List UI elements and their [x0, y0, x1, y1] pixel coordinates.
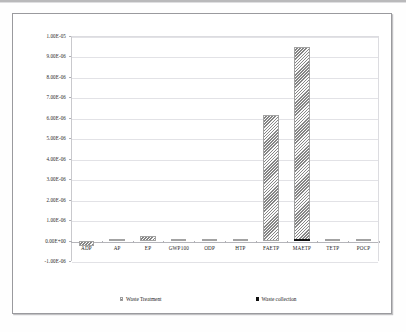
figure-container: 1.00E-059.00E-068.00E-067.00E-066.00E-06…	[12, 13, 392, 314]
legend-swatch-hatched-icon	[120, 297, 123, 300]
bar-group	[317, 36, 348, 261]
bar-group	[163, 36, 194, 261]
y-axis-tick-label: 7.00E-06	[14, 94, 66, 100]
x-axis-tick-label: EP	[133, 245, 164, 251]
bar-group	[287, 36, 318, 261]
y-axis-tick-label: 9.00E-06	[14, 53, 66, 59]
legend-entry[interactable]: Waste Treatment	[120, 296, 161, 302]
page-top-rule-secondary	[0, 2, 406, 3]
y-axis-tick-label: -1.00E-06	[14, 258, 66, 264]
x-axis-tick-label: GWP100	[163, 245, 194, 251]
bar-waste-treatment[interactable]	[263, 115, 278, 241]
x-tick-mark	[163, 241, 164, 243]
x-tick-mark	[71, 241, 72, 243]
x-axis-tick-label: AP	[102, 245, 133, 251]
x-tick-mark	[348, 241, 349, 243]
bar-waste-treatment[interactable]	[325, 239, 340, 241]
x-axis-tick-label: MAETP	[287, 245, 318, 251]
y-axis-tick-label: 8.00E-06	[14, 74, 66, 80]
legend-swatch-black-icon	[256, 297, 259, 300]
gridline	[72, 262, 378, 263]
bar-waste-treatment[interactable]	[356, 239, 371, 241]
y-axis-tick-label: 5.00E-06	[14, 135, 66, 141]
y-axis-tick-label: 3.00E-06	[14, 176, 66, 182]
x-axis-tick-label: HTP	[225, 245, 256, 251]
x-axis-tick-label: ADP	[71, 245, 102, 251]
legend-entry[interactable]: Waste collection	[256, 296, 297, 302]
x-tick-mark	[256, 241, 257, 243]
bar-group	[225, 36, 256, 261]
y-axis-tick-label: 0.00E+00	[14, 238, 66, 244]
bar-waste-treatment[interactable]	[109, 239, 124, 241]
bar-waste-treatment[interactable]	[171, 239, 186, 241]
bar-waste-treatment[interactable]	[233, 239, 248, 241]
chart-legend: Waste TreatmentWaste collection	[71, 296, 379, 310]
x-tick-mark	[379, 241, 380, 243]
y-axis-tick-label: 4.00E-06	[14, 156, 66, 162]
legend-label: Waste collection	[261, 296, 296, 302]
bar-waste-treatment[interactable]	[294, 47, 309, 240]
bar-group	[102, 36, 133, 261]
x-axis-tick-label: TETP	[317, 245, 348, 251]
bar-waste-treatment[interactable]	[140, 236, 155, 241]
bar-waste-collection[interactable]	[294, 239, 309, 241]
y-axis-tick-label: 1.00E-05	[14, 33, 66, 39]
bar-group	[256, 36, 287, 261]
bar-group	[71, 36, 102, 261]
bar-waste-treatment[interactable]	[202, 239, 217, 241]
x-axis-tick-label: POCP	[348, 245, 379, 251]
y-tick-mark	[69, 261, 71, 262]
bar-group	[348, 36, 379, 261]
y-axis-tick-label: 6.00E-06	[14, 115, 66, 121]
legend-label: Waste Treatment	[126, 296, 162, 302]
bar-series-group	[71, 36, 379, 261]
x-tick-mark	[133, 241, 134, 243]
x-axis-tick-label: FAETP	[256, 245, 287, 251]
y-axis-tick-label: 2.00E-06	[14, 197, 66, 203]
chart-page: 1.00E-059.00E-068.00E-067.00E-066.00E-06…	[0, 0, 406, 332]
x-tick-mark	[102, 241, 103, 243]
x-tick-mark	[225, 241, 226, 243]
x-axis-tick-label: ODP	[194, 245, 225, 251]
x-tick-mark	[194, 241, 195, 243]
x-tick-mark	[317, 241, 318, 243]
bar-group	[194, 36, 225, 261]
bar-group	[133, 36, 164, 261]
y-axis-tick-label: 1.00E-06	[14, 217, 66, 223]
x-tick-mark	[287, 241, 288, 243]
